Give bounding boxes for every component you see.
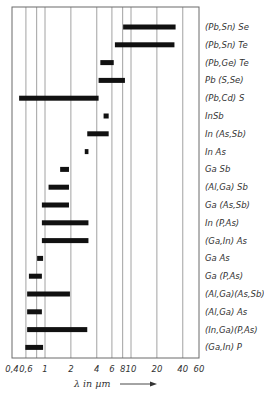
x-tick-label: 40 [177,364,188,374]
category-label: (Pb,Sn) Te [205,40,248,50]
x-tick-label: 0,4 [5,364,19,374]
x-tick-labels: 0,40,61246810204060 [5,364,204,374]
range-bar [49,185,69,190]
category-label: Ga (P,As) [205,271,243,281]
range-bar [123,25,175,30]
category-label: (In,Ga)(P,As) [205,325,258,335]
range-bar [99,78,125,83]
x-tick-label: 20 [151,364,162,374]
plot-frame [12,7,199,358]
category-label: (Ga,In) As [205,236,248,246]
x-tick-label: 0,6 [19,364,33,374]
x-tick-label: 1 [42,364,47,374]
category-label: (Pb,Cd) S [205,93,245,103]
x-tick-label: 2 [68,364,73,374]
category-label: Ga (As,Sb) [205,200,250,210]
x-axis-label: λ in µm [73,378,110,389]
range-bar [29,274,42,279]
range-bar [60,167,69,172]
category-label: In As [205,147,226,157]
range-bar [27,292,70,297]
range-bar [27,327,87,332]
gridlines [26,7,183,358]
range-bar [19,96,98,101]
category-label: Ga Sb [205,164,230,174]
x-tick-label: 10 [126,364,137,374]
range-bar [42,238,89,243]
range-bar [85,149,89,154]
category-label: Ga As [205,253,230,263]
category-label: Pb (S,Se) [205,75,244,85]
category-label: In (P,As) [205,218,239,228]
category-label: InSb [205,111,224,121]
category-label: (Al,Ga) Sb [205,182,248,192]
category-label: (Ga,In) P [205,342,243,352]
x-tick-label: 60 [194,364,205,374]
range-bar [37,256,43,261]
wavelength-range-chart: (Pb,Sn) Se(Pb,Sn) Te(Pb,Ge) TePb (S,Se)(… [0,0,264,398]
category-label: In (As,Sb) [205,129,246,139]
x-tick-label: 6 [109,364,115,374]
category-label: (Al,Ga)(As,Sb) [205,289,264,299]
category-label: (Al,Ga) As [205,307,248,317]
range-bar [87,131,108,136]
range-bar [115,42,175,47]
range-bar [104,114,109,119]
range-bar [100,60,113,65]
range-bar [42,220,89,225]
arrow-icon [120,382,157,387]
category-label: (Pb,Sn) Se [205,22,249,32]
range-bar [27,309,42,314]
category-label: (Pb,Ge) Te [205,58,249,68]
range-bar [25,345,43,350]
category-labels: (Pb,Sn) Se(Pb,Sn) Te(Pb,Ge) TePb (S,Se)(… [205,22,264,352]
x-tick-label: 4 [94,364,99,374]
bars [19,25,175,350]
range-bar [42,203,69,208]
